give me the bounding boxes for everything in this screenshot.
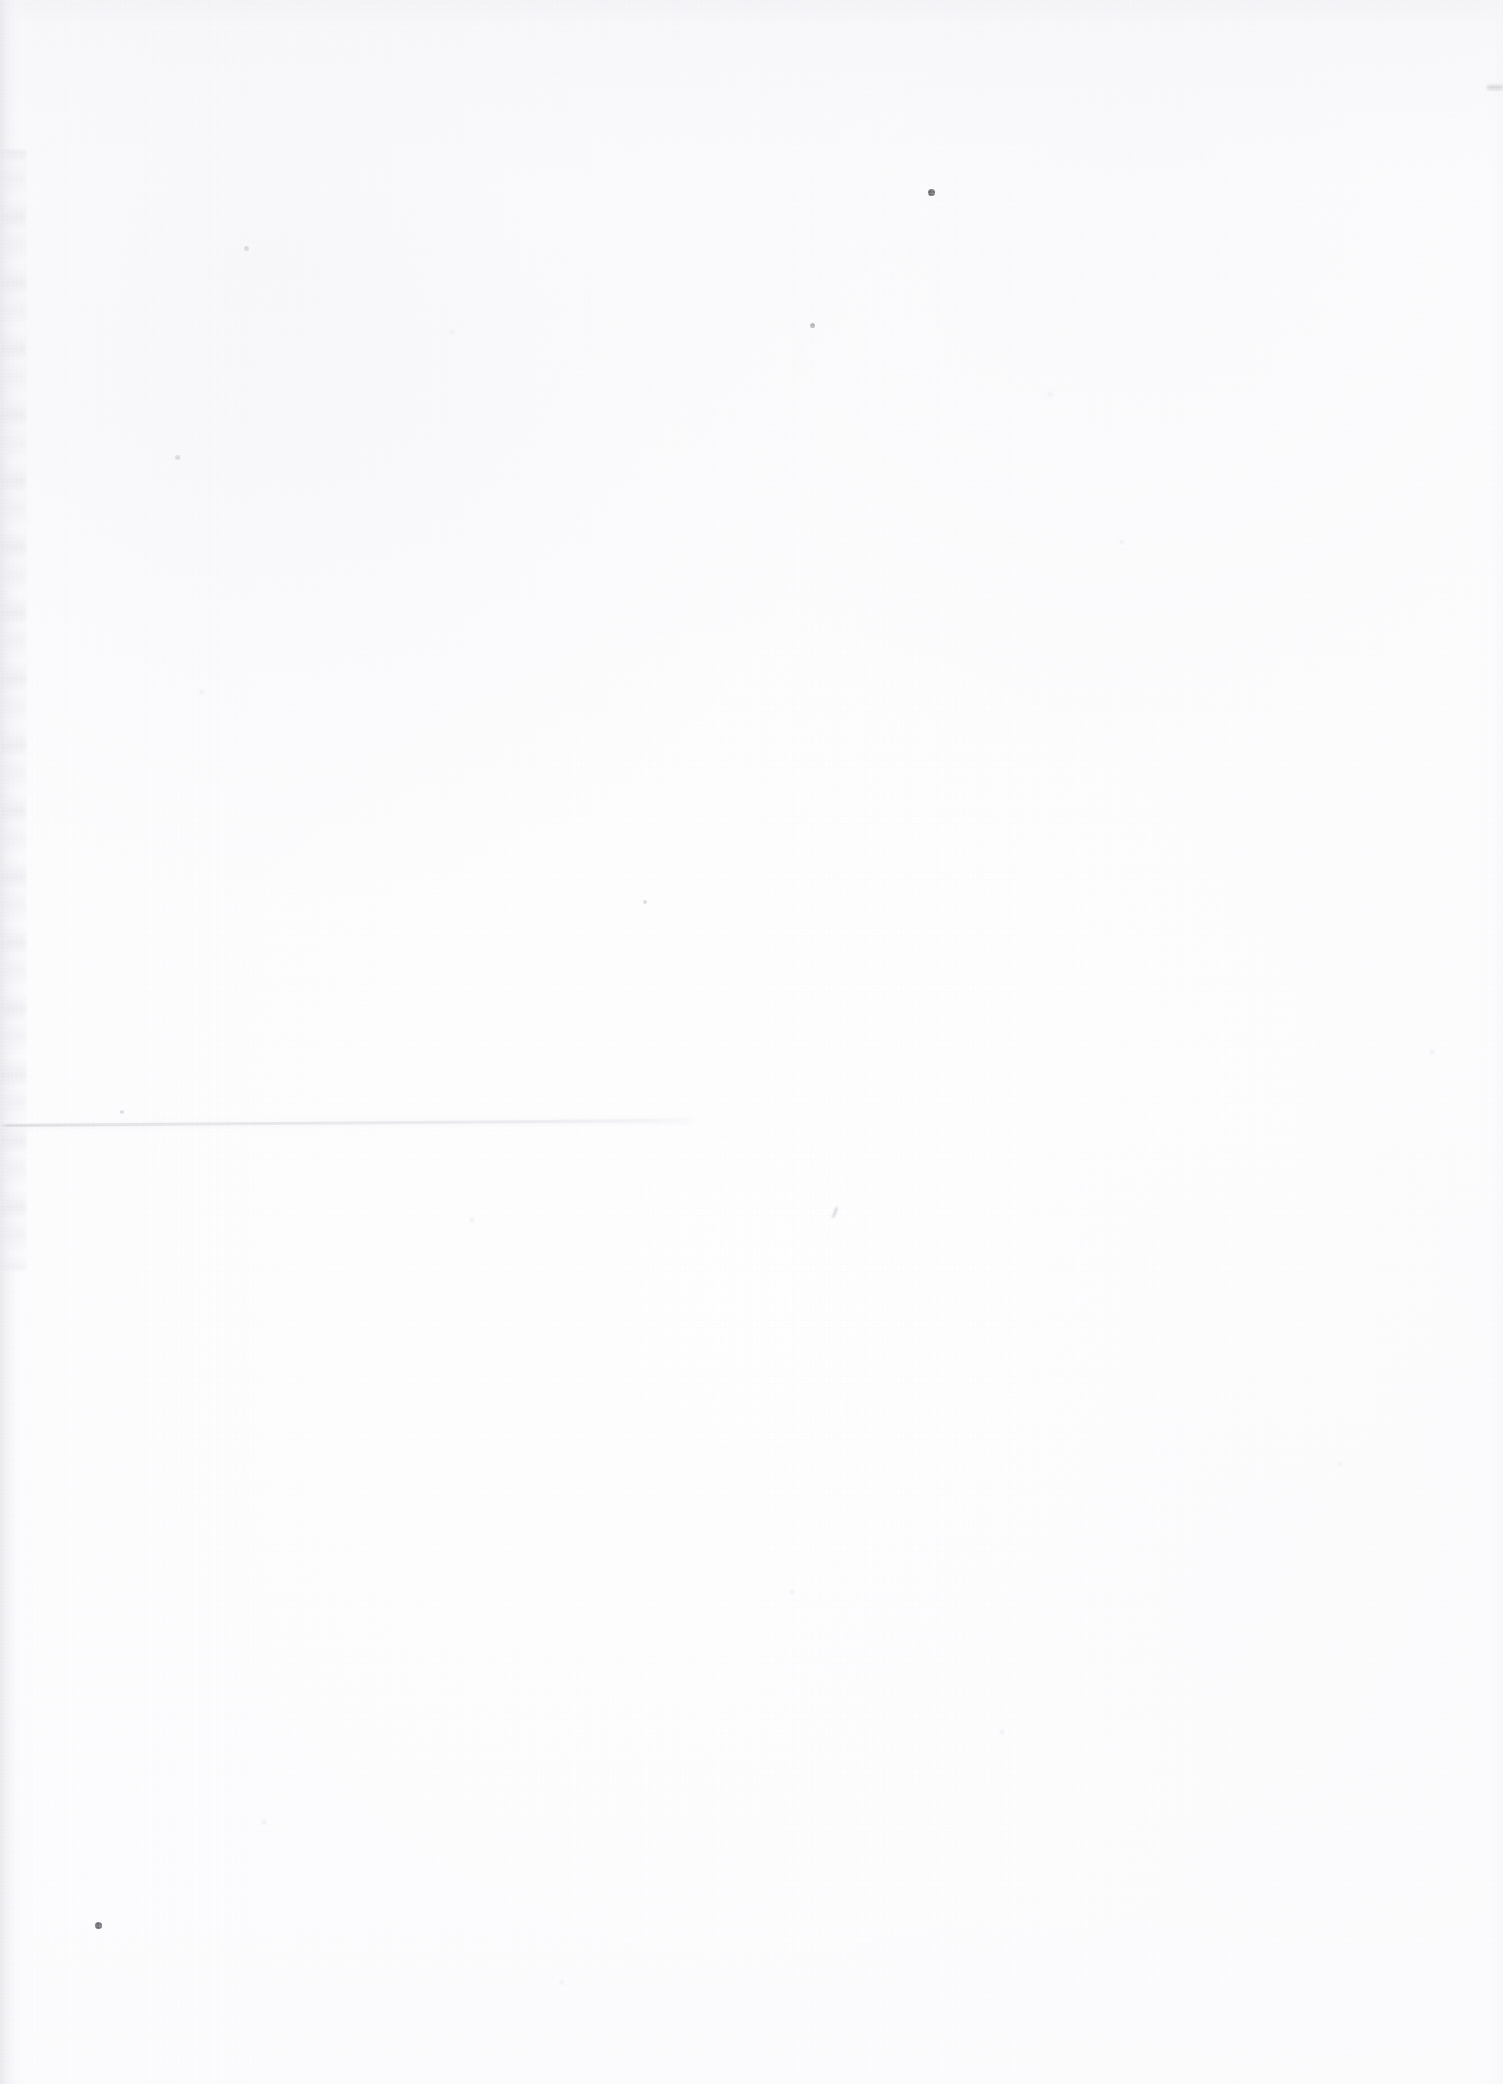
right-edge-shadow: [1473, 0, 1503, 2084]
top-edge-shadow: [0, 0, 1503, 60]
page-text-body: [150, 190, 1350, 1890]
speck-center-bottom: [560, 1980, 564, 1984]
smudge-top-right: [1487, 85, 1503, 90]
scanned-page: [0, 0, 1503, 2084]
left-edge-shadow-mottle: [0, 150, 26, 1270]
speck-lower-left-dark: [95, 1922, 102, 1929]
speck-far-right: [1430, 1050, 1434, 1054]
speck-left-low: [120, 1110, 124, 1114]
